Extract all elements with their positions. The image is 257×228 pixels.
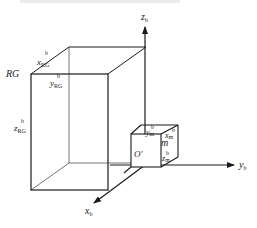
axes <box>94 27 234 203</box>
origin-o-prime-label: O′ <box>134 149 143 159</box>
m-x-sup: b <box>172 127 175 133</box>
rg-x-sup: b <box>45 50 48 56</box>
coordinate-diagram: zb yb xb RG xRG b yRG b zRG b O′ m ym b … <box>0 0 257 228</box>
z-axis-label: zb <box>140 11 148 23</box>
rg-name-label: RG <box>5 68 19 79</box>
x-axis <box>94 165 145 203</box>
rg-x-label: xRG <box>36 57 50 68</box>
m-z-sup: b <box>166 150 169 156</box>
rg-z-label: zRG <box>13 123 27 134</box>
rg-y-sup: b <box>57 73 60 79</box>
rg-y-label: yRG <box>49 78 63 89</box>
m-y-sup: b <box>151 124 154 130</box>
rg-z-sup: b <box>21 118 24 124</box>
y-axis-label: yb <box>238 159 246 171</box>
x-axis-label: xb <box>84 205 92 217</box>
